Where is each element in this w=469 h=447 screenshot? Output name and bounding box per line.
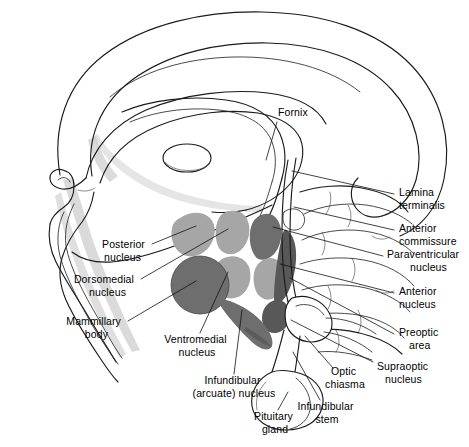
label-infundibular-stem-line-2: stem	[315, 413, 338, 425]
label-lamina-terminalis: Lamina terminalis	[399, 186, 445, 211]
label-mammillary-body-line-1: Mammillary	[66, 315, 121, 327]
label-pituitary-gland-line-1: Pituitary	[254, 410, 293, 422]
label-supraoptic-nucleus-line-2: nucleus	[385, 373, 422, 385]
label-dorsomedial-nucleus-line-2: nucleus	[89, 286, 126, 298]
label-preoptic-area-line-2: area	[409, 339, 430, 351]
leader-lamina-terminalis	[292, 171, 394, 194]
label-preoptic-area: Preoptic area	[399, 326, 441, 351]
label-mammillary-body-line-2: body	[85, 328, 109, 340]
label-ventromedial-nucleus-line-2: nucleus	[179, 346, 216, 358]
label-supraoptic-nucleus: Supraoptic nucleus	[377, 360, 431, 385]
label-ventromedial-nucleus: Ventromedial nucleus	[164, 333, 230, 358]
label-preoptic-area-line-1: Preoptic	[399, 326, 438, 338]
label-infundibular-arcuate-nucleus-line-2: (arcuate) nucleus	[193, 387, 276, 399]
label-anterior-commissure-line-1: Anterior	[399, 222, 437, 234]
label-paraventricular-nucleus-line-2: nucleus	[410, 261, 447, 273]
corpus-callosum	[58, 12, 447, 236]
dorsomedial-nucleus-blob	[216, 211, 250, 254]
paraventricular-nucleus-blob	[250, 214, 282, 260]
leader-anterior-nucleus	[280, 264, 394, 293]
label-dorsomedial-nucleus: Dorsomedial nucleus	[74, 273, 137, 298]
label-pituitary-gland-line-2: gland	[262, 423, 288, 435]
label-anterior-commissure-line-2: commissure	[399, 235, 457, 247]
label-anterior-nucleus-line-2: nucleus	[399, 298, 436, 310]
label-lamina-terminalis-line-1: Lamina	[399, 186, 434, 198]
label-anterior-nucleus: Anterior nucleus	[399, 285, 440, 310]
label-anterior-commissure: Anterior commissure	[399, 222, 457, 247]
label-supraoptic-nucleus-line-1: Supraoptic	[377, 360, 428, 372]
hypothalamic-nuclei	[171, 211, 296, 350]
label-fornix-line-1: Fornix	[278, 106, 308, 118]
label-dorsomedial-nucleus-line-1: Dorsomedial	[74, 273, 134, 285]
label-optic-chiasma: Optic chiasma	[325, 365, 365, 390]
label-fornix: Fornix	[278, 106, 308, 118]
label-lamina-terminalis-line-2: terminalis	[399, 199, 445, 211]
hypothalamus-diagram: Fornix Lamina terminalis Anterior commis…	[0, 0, 469, 447]
label-ventromedial-nucleus-line-1: Ventromedial	[164, 333, 227, 345]
label-posterior-nucleus: Posterior nucleus	[102, 238, 148, 263]
label-optic-chiasma-line-2: chiasma	[325, 378, 365, 390]
label-posterior-nucleus-line-1: Posterior	[102, 238, 145, 250]
label-optic-chiasma-line-1: Optic	[331, 365, 356, 377]
massa-intermedia	[163, 144, 211, 172]
label-paraventricular-nucleus-line-1: Paraventricular	[387, 248, 460, 260]
label-posterior-nucleus-line-2: nucleus	[104, 251, 141, 263]
label-infundibular-arcuate-nucleus-line-1: Infundibular	[204, 374, 260, 386]
label-paraventricular-nucleus: Paraventricular nucleus	[387, 248, 462, 273]
label-infundibular-arcuate-nucleus: Infundibular (arcuate) nucleus	[193, 374, 276, 399]
optic-chiasma-body	[285, 296, 332, 341]
label-anterior-nucleus-line-1: Anterior	[399, 285, 437, 297]
anatomy-svg: Fornix Lamina terminalis Anterior commis…	[0, 0, 469, 447]
posterior-nucleus-blob	[171, 213, 214, 257]
leader-anterior-commissure	[294, 207, 394, 230]
label-infundibular-stem-line-1: Infundibular	[297, 400, 353, 412]
